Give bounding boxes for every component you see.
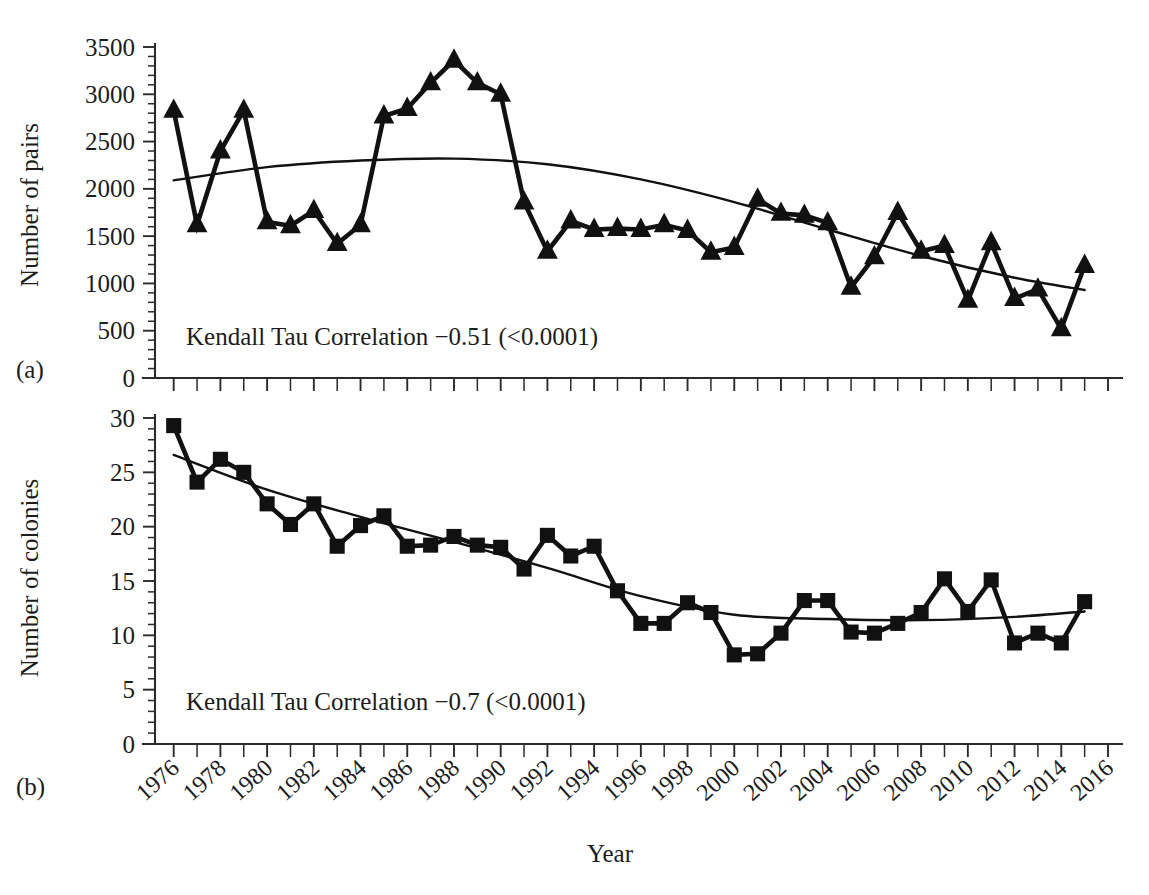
data-point-marker (1007, 635, 1022, 650)
panel-a-data-markers (163, 48, 1095, 336)
data-point-marker (654, 213, 675, 232)
y-tick-label: 3500 (85, 34, 135, 61)
data-point-marker (984, 572, 999, 587)
data-point-marker (166, 418, 181, 433)
data-point-marker (330, 539, 345, 554)
panel-b-data-markers (166, 418, 1092, 662)
data-point-marker (1077, 594, 1092, 609)
panel-b-label: (b) (16, 773, 45, 801)
y-tick-label: 1500 (85, 223, 135, 250)
data-point-marker (703, 605, 718, 620)
panel-b: 051015202530 Number of colonies Kendall … (16, 405, 1122, 868)
data-point-marker (1074, 254, 1095, 273)
data-point-marker (607, 217, 628, 236)
data-point-marker (1054, 635, 1069, 650)
panel-a-y-tick-labels: 0500100015002000250030003500 (85, 34, 135, 392)
data-point-marker (587, 539, 602, 554)
data-point-marker (400, 539, 415, 554)
data-point-marker (724, 236, 745, 255)
panel-a-y-ticks (143, 47, 155, 378)
data-point-marker (376, 508, 391, 523)
data-point-marker (680, 595, 695, 610)
data-point-marker (914, 605, 929, 620)
figure-svg: 0500100015002000250030003500 Number of p… (0, 0, 1149, 895)
y-tick-label: 0 (123, 365, 136, 392)
data-point-marker (187, 213, 208, 232)
data-point-marker (213, 452, 228, 467)
y-tick-label: 10 (110, 622, 135, 649)
x-tick-label: 1980 (224, 754, 277, 805)
y-tick-label: 20 (110, 513, 135, 540)
x-tick-label: 1976 (131, 754, 184, 805)
data-point-marker (727, 647, 742, 662)
panel-a-y-axis-title: Number of pairs (16, 123, 43, 287)
data-point-marker (514, 190, 535, 209)
panel-a: 0500100015002000250030003500 Number of p… (16, 34, 1122, 392)
x-tick-label: 1982 (271, 754, 324, 805)
data-point-marker (657, 616, 672, 631)
x-tick-label: 2010 (925, 754, 978, 805)
data-point-marker (934, 234, 955, 253)
x-tick-label: 1994 (551, 754, 604, 805)
x-tick-label: 1998 (645, 754, 698, 805)
data-point-marker (633, 616, 648, 631)
data-point-marker (957, 288, 978, 307)
data-point-marker (610, 583, 625, 598)
data-point-marker (303, 199, 324, 218)
data-point-marker (163, 98, 184, 117)
data-point-marker (257, 210, 278, 229)
y-tick-label: 5 (123, 676, 136, 703)
x-tick-label: 2004 (785, 754, 838, 805)
data-point-marker (563, 548, 578, 563)
panel-a-trend-line (174, 158, 1085, 290)
data-point-marker (306, 496, 321, 511)
x-tick-label: 1984 (318, 754, 371, 805)
panel-b-x-ticks (174, 744, 1108, 757)
data-point-marker (353, 518, 368, 533)
panel-b-y-axis-title: Number of colonies (16, 479, 43, 678)
y-tick-label: 0 (123, 731, 136, 758)
y-tick-label: 2000 (85, 175, 135, 202)
x-axis-title: Year (587, 840, 634, 867)
data-point-marker (773, 626, 788, 641)
data-point-marker (747, 187, 768, 206)
data-point-marker (190, 475, 205, 490)
data-point-marker (981, 231, 1002, 250)
x-tick-label: 2014 (1019, 754, 1072, 805)
y-tick-label: 25 (110, 459, 135, 486)
y-tick-label: 1000 (85, 270, 135, 297)
data-point-marker (844, 625, 859, 640)
data-point-marker (233, 98, 254, 117)
x-tick-label: 2002 (738, 754, 791, 805)
x-tick-label: 2008 (878, 754, 931, 805)
y-tick-label: 3000 (85, 81, 135, 108)
data-point-marker (260, 496, 275, 511)
data-point-marker (283, 517, 298, 532)
x-tick-label: 1992 (505, 754, 558, 805)
data-point-marker (887, 201, 908, 220)
y-tick-label: 500 (98, 317, 136, 344)
panel-b-y-ticks (143, 418, 155, 744)
x-tick-label: 1990 (458, 754, 511, 805)
data-point-marker (937, 571, 952, 586)
x-tick-label: 1988 (411, 754, 464, 805)
data-point-marker (517, 562, 532, 577)
data-point-marker (236, 465, 251, 480)
x-tick-label: 1978 (178, 754, 231, 805)
panel-b-annotation: Kendall Tau Correlation −0.7 (<0.0001) (186, 688, 586, 716)
data-point-marker (820, 593, 835, 608)
data-point-marker (890, 616, 905, 631)
x-tick-label: 1986 (365, 754, 418, 805)
x-tick-label: 2000 (692, 754, 745, 805)
figure-container: 0500100015002000250030003500 Number of p… (0, 0, 1149, 895)
data-point-marker (493, 540, 508, 555)
data-point-marker (750, 646, 765, 661)
panel-a-annotation: Kendall Tau Correlation −0.51 (<0.0001) (186, 323, 598, 351)
panel-b-trend-line (174, 455, 1085, 620)
data-point-marker (797, 593, 812, 608)
y-tick-label: 15 (110, 568, 135, 595)
x-tick-label: 2016 (1065, 754, 1118, 805)
data-point-marker (960, 604, 975, 619)
data-point-marker (423, 538, 438, 553)
panel-b-x-tick-labels: 1976197819801982198419861988199019921994… (131, 754, 1118, 805)
